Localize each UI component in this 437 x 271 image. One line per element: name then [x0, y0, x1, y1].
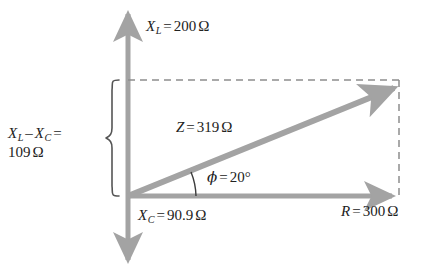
label-inductive-reactance: XL=200Ω [146, 18, 209, 37]
z-symbol: Z [176, 119, 184, 135]
label-resistance: R=300Ω [341, 203, 398, 221]
diff-subscript-1: L [18, 132, 24, 143]
xl-unit: Ω [198, 18, 209, 34]
xc-subscript: C [148, 214, 155, 225]
label-phase-angle: ϕ=20° [207, 169, 251, 187]
reactance-difference-value-line: 109Ω [8, 144, 64, 162]
xc-symbol: X [138, 207, 147, 223]
xl-equals: = [163, 18, 171, 34]
xc-equals: = [156, 207, 164, 223]
phi-symbol: ϕ [207, 168, 217, 186]
label-capacitive-reactance: XC=90.9Ω [138, 207, 206, 226]
reactance-difference-brace [106, 80, 119, 196]
label-impedance: Z=319Ω [176, 119, 232, 137]
diff-minus: – [25, 125, 33, 141]
z-unit: Ω [221, 119, 232, 135]
r-equals: = [352, 203, 360, 219]
z-equals: = [186, 119, 194, 135]
xc-value: 90.9 [167, 207, 193, 223]
z-vector-arrow [128, 88, 394, 196]
label-reactance-difference: XL–XC= 109Ω [8, 125, 64, 162]
phi-value: 20 [230, 169, 245, 185]
z-value: 319 [197, 119, 220, 135]
r-unit: Ω [387, 203, 398, 219]
diff-equals: = [53, 125, 61, 141]
xl-symbol: X [146, 18, 155, 34]
diff-subscript-2: C [45, 132, 52, 143]
xc-unit: Ω [195, 207, 206, 223]
phi-equals: = [219, 169, 227, 185]
r-symbol: R [341, 203, 350, 219]
diff-symbol-1: X [8, 125, 17, 141]
phi-unit: ° [245, 169, 251, 185]
diff-value: 109 [8, 144, 31, 160]
reactance-difference-expression: XL–XC= [8, 125, 64, 141]
diff-unit: Ω [33, 144, 44, 160]
r-value: 300 [363, 203, 386, 219]
phase-angle-arc [191, 172, 196, 196]
diff-symbol-2: X [35, 125, 44, 141]
phasor-diagram-figure: XL=200Ω XC=90.9Ω R=300Ω Z=319Ω ϕ=20° XL–… [0, 0, 437, 271]
xl-subscript: L [156, 25, 162, 36]
xl-value: 200 [174, 18, 197, 34]
